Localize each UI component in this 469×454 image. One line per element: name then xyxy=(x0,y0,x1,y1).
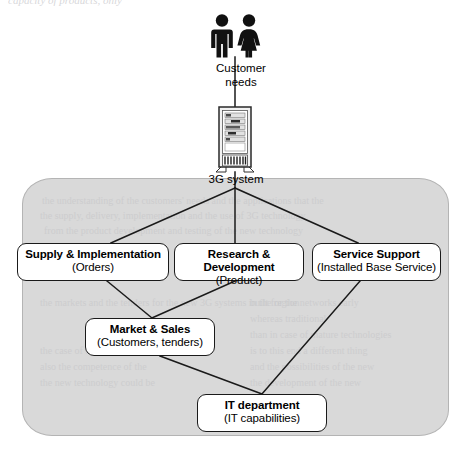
node-supply-implementation[interactable]: Supply & Implementation (Orders) xyxy=(17,243,169,281)
node-subtitle: (Installed Base Service) xyxy=(313,261,440,274)
server-tower-icon xyxy=(0,0,469,454)
node-title: Service Support xyxy=(313,248,440,261)
node-title: Market & Sales xyxy=(86,323,214,336)
node-subtitle: (Orders) xyxy=(18,261,168,274)
node-title: IT department xyxy=(198,399,326,412)
node-subtitle: (IT capabilities) xyxy=(198,412,326,425)
node-service-support[interactable]: Service Support (Installed Base Service) xyxy=(312,243,441,281)
system-label: 3G system xyxy=(180,173,292,185)
node-subtitle: (Customers, tenders) xyxy=(86,336,214,349)
node-subtitle: (Product) xyxy=(175,274,303,287)
node-research-development[interactable]: Research & Development (Product) xyxy=(174,243,304,281)
node-title: Supply & Implementation xyxy=(18,248,168,261)
node-market-sales[interactable]: Market & Sales (Customers, tenders) xyxy=(85,318,215,356)
node-it-department[interactable]: IT department (IT capabilities) xyxy=(197,394,327,432)
node-title: Research & Development xyxy=(175,248,303,274)
diagram-page: capacity of products, only the understan… xyxy=(0,0,469,454)
